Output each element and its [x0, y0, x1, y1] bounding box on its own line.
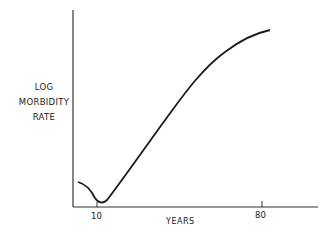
x-tick-label-80: 80: [255, 210, 266, 220]
y-label-line-1: LOG: [14, 80, 74, 95]
chart: LOG MORBIDITY RATE 10 80 YEARS: [0, 0, 335, 242]
y-axis-label: LOG MORBIDITY RATE: [14, 80, 74, 125]
y-label-line-2: MORBIDITY: [14, 95, 74, 110]
x-tick-label-10: 10: [91, 211, 102, 221]
x-axis-label: YEARS: [166, 217, 195, 226]
morbidity-curve: [78, 30, 270, 202]
y-label-line-3: RATE: [14, 110, 74, 125]
